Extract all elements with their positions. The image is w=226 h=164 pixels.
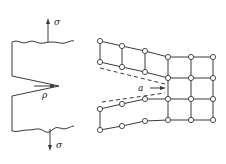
notch-radius-label: ρ xyxy=(41,90,48,100)
arrow-up-icon xyxy=(46,18,50,24)
notched-specimen: σ σ ρ xyxy=(12,17,74,151)
atomic-lattice: a xyxy=(97,38,215,132)
crack-diagram: σ σ ρ a xyxy=(0,0,226,164)
arrow-right-icon xyxy=(160,86,166,90)
lattice-spacing-label: a xyxy=(138,83,143,93)
stress-label-bottom: σ xyxy=(56,140,63,150)
stress-label-top: σ xyxy=(54,17,61,27)
crack-face-upper xyxy=(100,68,165,84)
specimen-bottom-edge xyxy=(12,126,74,132)
arrow-down-icon xyxy=(48,145,52,151)
crack-face-lower xyxy=(102,93,165,102)
atom-nodes xyxy=(97,38,215,132)
specimen-top-edge xyxy=(12,41,74,44)
